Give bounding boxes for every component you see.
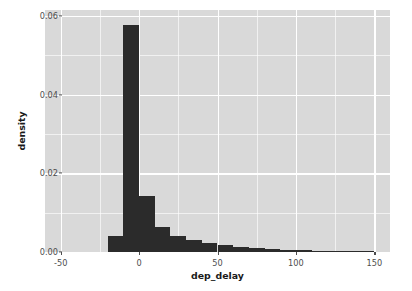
gridline-major-vertical — [61, 10, 62, 252]
y-axis-tick-label: 0.00 — [40, 247, 58, 257]
x-axis-tick-mark — [218, 252, 219, 255]
histogram-bar — [170, 236, 186, 252]
gridline-minor-vertical — [100, 10, 101, 252]
gridline-major-vertical — [218, 10, 219, 252]
histogram-bar — [218, 245, 234, 252]
x-axis-tick-label: 0 — [136, 258, 141, 268]
x-axis-tick-mark — [296, 252, 297, 255]
histogram-bar — [327, 251, 343, 252]
x-axis-tick-mark — [374, 252, 375, 255]
x-axis-tick-mark — [139, 252, 140, 255]
histogram-bar — [312, 251, 328, 252]
histogram-bar — [280, 250, 296, 252]
histogram-bar — [186, 240, 202, 252]
histogram-bar — [155, 227, 171, 252]
histogram-bar — [108, 236, 124, 252]
histogram-bar — [343, 251, 359, 252]
x-axis-tick-label: 100 — [288, 258, 304, 268]
y-axis-tick-mark — [59, 15, 62, 16]
gridline-minor-vertical — [178, 10, 179, 252]
histogram-bar — [139, 196, 155, 252]
y-axis-tick-label: 0.02 — [40, 168, 58, 178]
x-axis-label: dep_delay — [45, 270, 390, 281]
histogram-bar — [296, 250, 312, 252]
histogram-bar — [233, 247, 249, 252]
x-axis-tick-mark — [61, 252, 62, 255]
gridline-major-vertical — [296, 10, 297, 252]
gridline-minor-vertical — [335, 10, 336, 252]
x-axis-tick-label: 50 — [212, 258, 222, 268]
histogram-bar — [249, 248, 265, 252]
gridline-major-vertical — [374, 10, 375, 252]
x-axis-tick-label: -50 — [54, 258, 67, 268]
histogram-bar — [359, 251, 375, 252]
x-axis-tick-label: 150 — [366, 258, 382, 268]
histogram-bar — [123, 25, 139, 252]
y-axis-tick-label: 0.06 — [40, 11, 58, 21]
histogram-figure: density dep_delay 0.000.020.040.06-50050… — [0, 0, 412, 291]
histogram-bar — [202, 243, 218, 252]
y-axis-tick-mark — [59, 94, 62, 95]
y-axis-tick-mark — [59, 173, 62, 174]
histogram-bar — [265, 249, 281, 252]
gridline-minor-vertical — [257, 10, 258, 252]
y-axis-tick-label: 0.04 — [40, 90, 58, 100]
y-axis-label: density — [16, 111, 27, 150]
plot-panel — [45, 10, 390, 252]
